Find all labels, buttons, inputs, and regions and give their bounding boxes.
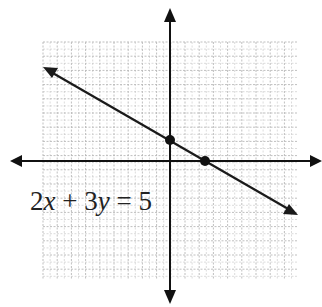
coordinate-plane [0, 0, 322, 307]
coef-a: 2 [30, 186, 44, 216]
y-axis-up-arrow-icon [164, 8, 176, 22]
var-x: x [44, 186, 56, 216]
constant: 5 [138, 186, 152, 216]
line-arrow-right-icon [283, 204, 298, 215]
x-axis-left-arrow-icon [10, 155, 22, 167]
graph-figure: 2x + 3y = 5 [0, 0, 322, 307]
intercept-point [200, 156, 210, 166]
y-axis-down-arrow-icon [164, 290, 176, 304]
line-arrow-left-icon [43, 67, 58, 78]
plus-sign: + [55, 186, 84, 216]
equation-label: 2x + 3y = 5 [30, 186, 152, 217]
var-y: y [98, 186, 110, 216]
x-axis-right-arrow-icon [310, 155, 322, 167]
coef-b: 3 [84, 186, 98, 216]
intercept-point [165, 135, 175, 145]
equals-sign: = [110, 186, 139, 216]
